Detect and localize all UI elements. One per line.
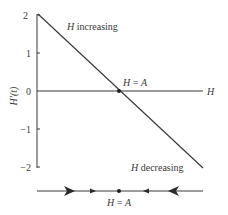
y-tick-label-neg1: −1 (20, 124, 31, 135)
decreasing-annotation: H decreasing (130, 162, 184, 173)
y-tick-label-2: 2 (23, 10, 28, 21)
y-axis-label: H′(t) (8, 86, 20, 107)
arrow-right-small-icon (90, 189, 96, 194)
y-tick-label-0: 0 (26, 86, 31, 97)
increasing-annotation: H increasing (66, 21, 118, 32)
equilibrium-label: H = A (122, 77, 148, 88)
x-axis-label: H (206, 86, 215, 97)
phase-line (37, 186, 203, 196)
y-tick-label-1: 1 (26, 48, 31, 59)
phase-equilibrium-label: H = A (106, 197, 132, 208)
arrow-left-small-icon (143, 189, 149, 194)
equilibrium-point (117, 89, 121, 93)
y-tick-label-neg2: −2 (20, 162, 31, 173)
phase-diagram: 2 1 0 −1 −2 H′(t) H H = A H increasing H… (0, 0, 228, 215)
phase-equilibrium-dot (117, 189, 121, 193)
